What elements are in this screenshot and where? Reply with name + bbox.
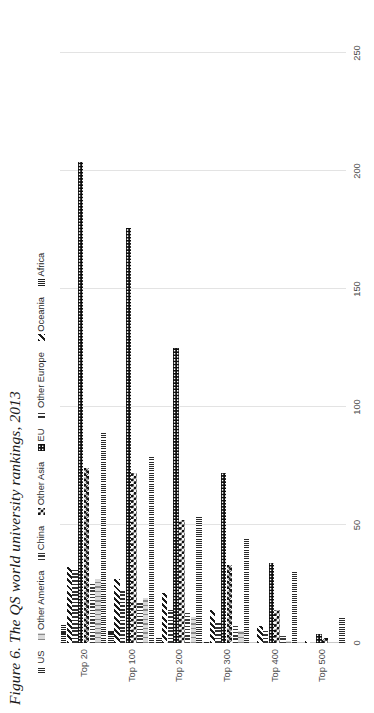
x-tick-label-250: 250 [352,45,362,61]
plot-area: 050100150200250Top 20Top 100Top 200Top 3… [60,53,346,643]
bar-otherasia [274,610,279,643]
bar-group-top-300 [203,53,251,643]
bar-china [185,612,190,643]
bar-china [90,584,95,643]
legend-item-otherasia: Other Asia [36,462,46,515]
bar-oceania [210,610,215,643]
bar-us [244,539,249,643]
x-tick-label-50: 50 [352,520,362,530]
bar-group-top-20 [60,53,108,643]
bar-eu [173,348,178,643]
bar-otheramerica [95,579,100,643]
figure-canvas: Figure 6. The QS world university rankin… [0,0,374,713]
bar-us [101,433,106,643]
bar-othereurope [120,591,125,643]
bar-oceania [162,593,167,643]
legend-swatch-otheramerica-icon [38,633,45,640]
category-label-top-300: Top 300 [222,649,232,707]
bar-othereurope [72,570,77,643]
bar-eu [316,634,321,643]
bar-otheramerica [143,598,148,643]
legend-swatch-us-icon [38,666,45,673]
bar-africa [61,624,66,643]
bar-oceania [305,641,310,643]
x-tick-label-150: 150 [352,281,362,297]
legend-item-africa: Africa [36,253,46,286]
bar-oceania [114,579,119,643]
bar-othereurope [168,610,173,643]
x-tick-label-200: 200 [352,163,362,179]
bar-africa [156,638,161,643]
bar-otherasia [227,565,232,643]
bar-otherasia [84,468,89,643]
legend-label: Other Asia [36,462,46,505]
legend-swatch-otherasia-icon [38,508,45,515]
legend-label: Other America [36,571,46,630]
bar-otheramerica [191,617,196,643]
bar-africa [108,631,113,643]
bar-china [280,636,285,643]
category-label-top-500: Top 500 [317,649,327,707]
bar-eu [221,473,226,643]
bar-otherasia [179,520,184,643]
legend-item-othereurope: Other Europe [36,352,46,417]
x-tick-label-0: 0 [352,640,362,645]
category-label-top-100: Top 100 [127,649,137,707]
chart-legend: USOther AmericaChinaOther AsiaEUOther Eu… [36,253,46,673]
bar-us [339,617,344,643]
legend-item-china: China [36,526,46,560]
legend-swatch-oceania-icon [38,334,45,341]
bar-oceania [67,567,72,643]
category-label-top-200: Top 200 [174,649,184,707]
bar-us [149,457,154,643]
legend-swatch-africa-icon [38,279,45,286]
legend-item-eu: EU [36,429,46,451]
legend-label: Africa [36,253,46,277]
bar-eu [126,228,131,643]
legend-item-otheramerica: Other America [36,571,46,640]
legend-item-us: US [36,651,46,673]
legend-label: China [36,526,46,550]
bar-othereurope [215,622,220,643]
legend-label: Oceania [36,297,46,332]
bar-group-top-100 [108,53,156,643]
bar-otheramerica [238,631,243,643]
legend-label: US [36,651,46,664]
legend-item-oceania: Oceania [36,297,46,341]
bar-othereurope [263,631,268,643]
bar-us [292,570,297,643]
legend-label: EU [36,429,46,442]
bar-africa [204,641,209,643]
x-tick-label-100: 100 [352,399,362,415]
bar-otherasia [131,473,136,643]
bar-us [196,516,201,643]
rotated-figure-wrapper: Figure 6. The QS world university rankin… [0,0,374,713]
figure-title: Figure 6. The QS world university rankin… [6,391,24,705]
bar-oceania [257,626,262,643]
legend-label: Other Europe [36,352,46,408]
bar-group-top-500 [298,53,346,643]
bar-china [233,624,238,643]
legend-swatch-china-icon [38,553,45,560]
category-label-top-20: Top 20 [79,649,89,707]
legend-swatch-eu-icon [38,444,45,451]
bar-eu [269,563,274,643]
bar-group-top-400 [251,53,299,643]
legend-swatch-othereurope-icon [38,411,45,418]
bar-china [137,601,142,643]
bar-eu [78,162,83,643]
category-label-top-400: Top 400 [270,649,280,707]
bar-otherasia [322,638,327,643]
bar-otheramerica [286,641,291,643]
bar-group-top-200 [155,53,203,643]
